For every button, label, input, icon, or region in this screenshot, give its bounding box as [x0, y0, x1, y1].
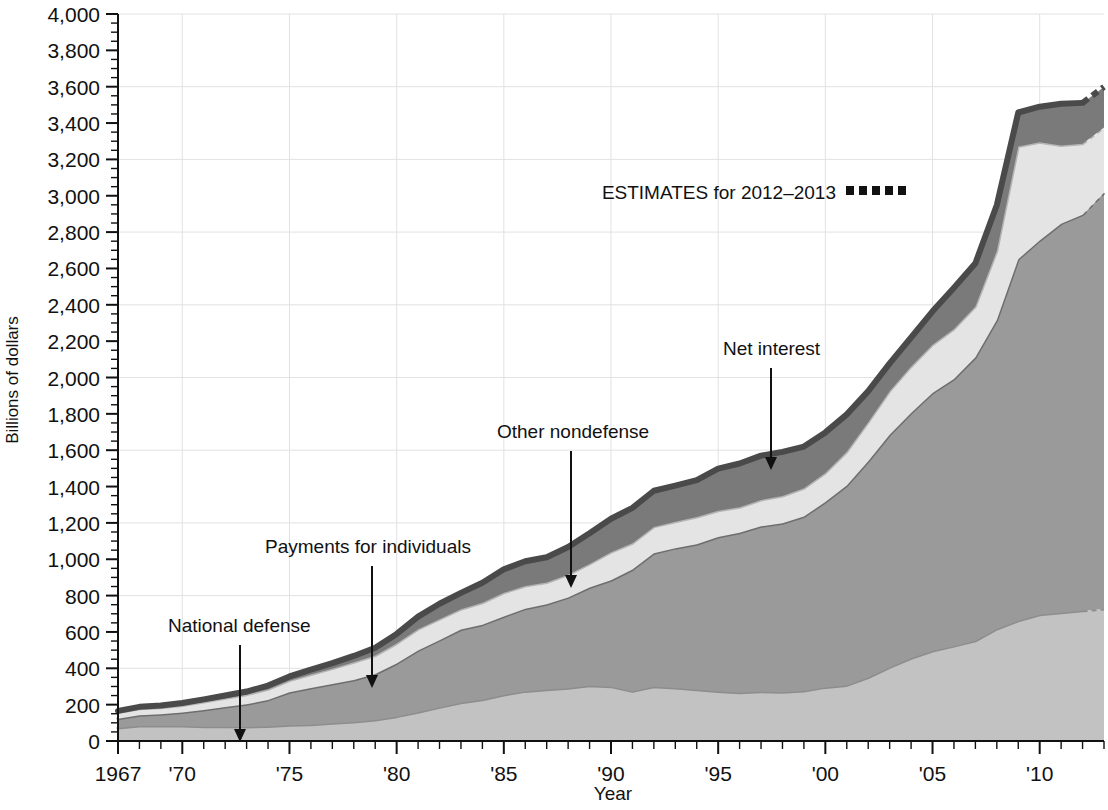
- estimates-dash-segment: [885, 186, 893, 195]
- y-tick-label: 4,000: [47, 3, 100, 26]
- y-tick-label: 3,200: [47, 148, 100, 171]
- x-tick-label: '70: [169, 762, 196, 785]
- x-tick-label: '10: [1026, 762, 1053, 785]
- y-tick-label: 3,800: [47, 39, 100, 62]
- series-annotation-label: Other nondefense: [497, 421, 649, 442]
- x-tick-label: '75: [276, 762, 303, 785]
- estimates-dash-segment: [872, 186, 880, 195]
- y-axis-title: Billions of dollars: [3, 316, 22, 444]
- x-tick-label: '85: [490, 762, 517, 785]
- series-annotation-label: Net interest: [723, 338, 821, 359]
- y-tick-label: 3,600: [47, 76, 100, 99]
- y-tick-label: 1,200: [47, 512, 100, 535]
- x-axis-title: Year: [594, 783, 633, 804]
- y-tick-label: 2,400: [47, 294, 100, 317]
- y-tick-label: 2,200: [47, 330, 100, 353]
- estimates-label: ESTIMATES for 2012–2013: [602, 182, 836, 203]
- x-tick-label: 1967: [95, 762, 142, 785]
- x-tick-label: '90: [597, 762, 624, 785]
- series-annotation-label: National defense: [168, 615, 311, 636]
- y-tick-label: 1,400: [47, 476, 100, 499]
- y-tick-label: 1,000: [47, 548, 100, 571]
- y-tick-label: 3,000: [47, 185, 100, 208]
- estimates-dash-segment: [859, 186, 867, 195]
- ytick-labels: 02004006008001,0001,2001,4001,6001,8002,…: [47, 3, 100, 753]
- estimates-dash-segment: [846, 186, 854, 195]
- x-tick-label: '05: [919, 762, 946, 785]
- estimates-dash-segment: [898, 186, 906, 195]
- estimates-dash-marker: [846, 186, 906, 195]
- y-tick-label: 3,400: [47, 112, 100, 135]
- y-tick-label: 200: [65, 694, 100, 717]
- stacked-area-chart: 02004006008001,0001,2001,4001,6001,8002,…: [0, 0, 1108, 810]
- x-tick-label: '95: [704, 762, 731, 785]
- y-tick-label: 1,600: [47, 439, 100, 462]
- y-tick-label: 2,000: [47, 367, 100, 390]
- y-tick-label: 2,600: [47, 257, 100, 280]
- y-tick-label: 600: [65, 621, 100, 644]
- x-tick-label: '80: [383, 762, 410, 785]
- series-annotation-label: Payments for individuals: [265, 536, 471, 557]
- xtick-labels: 1967'70'75'80'85'90'95'00'05'10: [95, 762, 1054, 785]
- x-tick-label: '00: [812, 762, 839, 785]
- y-tick-label: 800: [65, 585, 100, 608]
- y-tick-label: 1,800: [47, 403, 100, 426]
- legend-estimates: ESTIMATES for 2012–2013: [602, 182, 906, 203]
- y-tick-label: 0: [88, 730, 100, 753]
- chart-container: 02004006008001,0001,2001,4001,6001,8002,…: [0, 0, 1108, 810]
- y-tick-label: 400: [65, 657, 100, 680]
- y-tick-label: 2,800: [47, 221, 100, 244]
